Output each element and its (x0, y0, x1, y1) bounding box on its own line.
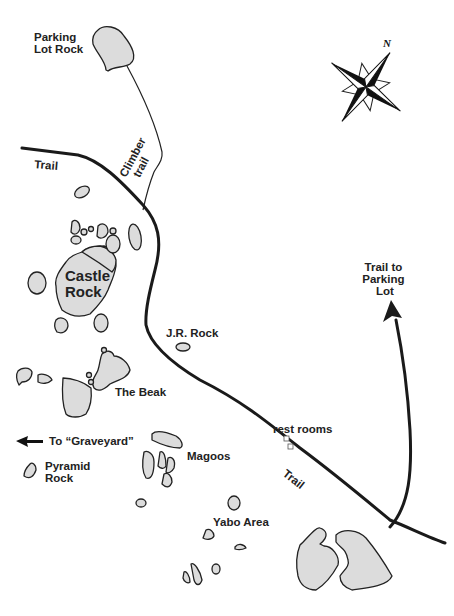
small-rock (97, 224, 108, 238)
label-parking-lot-rock: Parking Lot Rock (34, 31, 84, 55)
label-to-graveyard: To “Graveyard” (49, 435, 134, 447)
small-rock (127, 223, 143, 251)
label-pyramid-rock: Pyramid Rock (45, 460, 94, 484)
yabo-rock (235, 544, 246, 549)
label-yabo-area: Yabo Area (213, 516, 269, 528)
magoos-rock (158, 452, 166, 469)
small-rock (212, 564, 220, 574)
small-rock (38, 374, 52, 383)
restroom-icon (288, 444, 293, 449)
small-rock (89, 380, 94, 385)
small-rock (73, 184, 92, 201)
label-trail-to-parking-lot: Trail to Parking Lot (362, 261, 407, 297)
restroom-icon (284, 436, 289, 441)
parking-lot-trail-path (390, 320, 411, 527)
small-rock (71, 236, 81, 244)
small-rock (110, 228, 116, 234)
label-trail-upper: Trail (34, 158, 59, 172)
arrow-up-icon (383, 300, 402, 322)
pyramid-rock (24, 463, 36, 477)
small-rock (87, 373, 92, 378)
main-trail-path (22, 148, 445, 543)
small-rock (89, 227, 94, 232)
label-rest-rooms: rest rooms (273, 423, 332, 435)
small-rock (55, 318, 68, 333)
climbing-area-map: N Parking Lot Rock Trail Climber trail C… (0, 0, 454, 616)
small-rock (17, 368, 32, 385)
label-castle-rock: Castle Rock (65, 267, 114, 300)
small-rock (102, 348, 107, 353)
large-rock-west (297, 528, 339, 590)
parking-lot-rock (93, 27, 134, 71)
magoos-rock (152, 432, 182, 448)
yabo-rock (228, 496, 240, 510)
magoos-rock (166, 457, 175, 472)
yabo-rock (183, 572, 190, 583)
small-rock (62, 378, 91, 417)
small-rock (94, 314, 108, 332)
small-rock (106, 235, 120, 253)
label-jr-rock: J.R. Rock (166, 327, 219, 339)
magoos-rock (162, 473, 172, 486)
compass-rose-icon (308, 29, 425, 146)
yabo-rock (191, 564, 202, 585)
jr-rock (176, 343, 190, 351)
label-magoos: Magoos (187, 450, 230, 462)
small-rock (71, 220, 80, 234)
arrow-left-icon (16, 436, 43, 447)
large-rock-east (336, 531, 392, 590)
compass-north-label: N (382, 37, 392, 49)
small-rock (28, 272, 46, 294)
climber-trail-path (127, 66, 162, 210)
magoos-rock (143, 451, 154, 478)
yabo-rock (203, 529, 214, 539)
label-the-beak: The Beak (115, 386, 167, 398)
label-trail-lower: Trail (281, 467, 307, 491)
small-rock (81, 229, 87, 235)
the-beak (93, 351, 130, 390)
small-rock (136, 499, 146, 507)
